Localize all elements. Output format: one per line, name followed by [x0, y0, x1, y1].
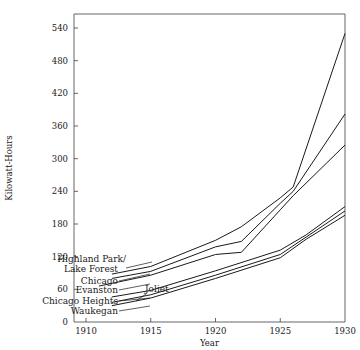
y-axis-tick-label: 180: [52, 219, 68, 229]
line-chart: 0601201802403003604204805401910191519201…: [0, 0, 360, 350]
series-inline-label: Lake Forest: [64, 264, 118, 274]
y-axis-tick-label: 360: [52, 121, 68, 131]
y-axis-tick-label: 240: [52, 186, 68, 196]
series-line: [112, 33, 345, 274]
y-axis-tick-label: 60: [57, 284, 68, 294]
y-axis-tick-label: 480: [52, 56, 68, 66]
chart-container: 0601201802403003604204805401910191519201…: [0, 0, 360, 350]
x-axis-tick-label: 1925: [269, 326, 291, 336]
y-axis-tick-label: 420: [52, 88, 68, 98]
series-inline-label: Waukegan: [71, 306, 119, 316]
y-axis-tick-label: 540: [52, 23, 68, 33]
x-axis-title: Year: [199, 338, 220, 348]
label-leader-line: [119, 274, 150, 281]
y-axis-tick-label: 0: [63, 317, 68, 327]
label-leader-line: [119, 306, 150, 311]
series-inline-label: Joliet: [144, 284, 169, 294]
series-line: [99, 145, 345, 286]
y-axis-tick-label: 300: [52, 154, 68, 164]
series-inline-label: Evanston: [76, 285, 118, 295]
y-axis-title: Kilowatt-Hours: [4, 135, 14, 200]
series-inline-label: Highland Park/: [57, 254, 127, 264]
x-axis-tick-label: 1910: [75, 326, 97, 336]
x-axis-tick-label: 1915: [140, 326, 162, 336]
x-axis-tick-label: 1920: [205, 326, 227, 336]
x-axis-tick-label: 1930: [334, 326, 356, 336]
series-inline-label: Chicago Heights: [42, 296, 118, 306]
